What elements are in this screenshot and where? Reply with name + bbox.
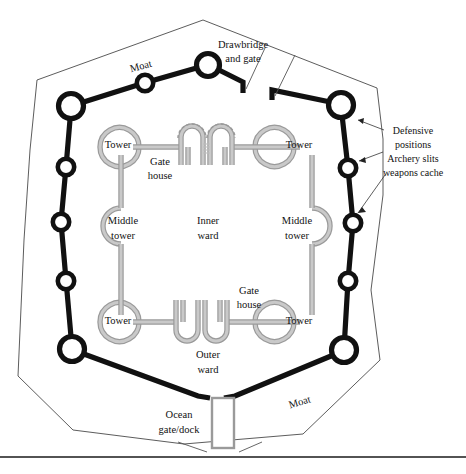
annotation-leaders [358, 118, 385, 213]
label-gate-house-top-line2: house [148, 170, 173, 181]
leader-arrow-2 [359, 157, 366, 163]
leader-arrow-3 [358, 207, 366, 213]
label-middle-tower-right-line2: tower [285, 230, 309, 241]
castle-floor-plan-diagram: Moat Drawbridge and gate Tower Tower Tow… [0, 0, 466, 474]
label-gate-house-top-line1: Gate [150, 156, 170, 167]
moat-node-corner-bottom-left [60, 337, 85, 362]
label-annotation-line3: Archery slits [387, 153, 438, 164]
label-annotation-line4: weapons cache [383, 167, 444, 178]
label-annotation-line2: positions [395, 139, 431, 150]
label-outer-ward-line2: ward [198, 364, 220, 375]
gatehouse-bottom-right-drum [205, 300, 227, 341]
moat-node-corner-top-right [329, 93, 354, 118]
label-middle-tower-left-line1: Middle [108, 215, 139, 226]
label-moat-top: Moat [129, 58, 153, 74]
castle-plan-svg: Moat Drawbridge and gate Tower Tower Tow… [0, 0, 466, 474]
moat-segment-bottom-left [73, 350, 210, 398]
moat-node-corner-bottom-right [332, 338, 357, 363]
label-ocean-gate-line1: Ocean [166, 409, 194, 420]
gatehouse-top-left-drum [181, 126, 203, 165]
label-drawbridge-line1: Drawbridge [218, 39, 268, 50]
ocean-gate-dock-group [212, 398, 234, 448]
moat-node-right-1 [340, 160, 356, 176]
label-middle-tower-left-line2: tower [111, 230, 135, 241]
label-moat-bottom: Moat [287, 393, 311, 410]
label-drawbridge-line2: and gate [225, 53, 261, 64]
label-middle-tower-right-line1: Middle [282, 215, 313, 226]
moat-node-left-1 [58, 159, 74, 175]
label-ocean-gate-line2: gate/dock [159, 424, 201, 435]
moat-node-left-2 [53, 214, 69, 230]
label-inner-ward-line2: ward [198, 230, 220, 241]
leader-arrow-1 [358, 118, 364, 124]
moat-node-left-3 [58, 273, 74, 289]
ocean-dock-rect [212, 398, 234, 448]
label-tower-bottom-left: Tower [105, 315, 132, 326]
label-annotation-line1: Defensive [393, 125, 434, 136]
middle-tower-right-shell [312, 208, 330, 244]
gatehouse-bottom-left-drum [176, 300, 198, 341]
moat-node-corner-top-left [59, 94, 84, 119]
ocean-gate-leader-right [239, 442, 262, 452]
label-gate-house-bottom-line2: house [237, 299, 262, 310]
moat-node-right-2 [345, 215, 361, 231]
moat-node-top-apex [197, 54, 220, 77]
drawbridge-plank-right [275, 55, 295, 96]
label-inner-ward-line1: Inner [197, 215, 220, 226]
label-tower-top-left: Tower [105, 139, 132, 150]
moat-node-right-3 [340, 273, 356, 289]
label-tower-bottom-right: Tower [286, 315, 313, 326]
label-outer-ward-line1: Outer [196, 349, 220, 360]
label-gate-house-bottom-line1: Gate [239, 285, 259, 296]
moat-segment-bottom-right [224, 351, 343, 398]
label-tower-top-right: Tower [286, 139, 313, 150]
moat-node-top-left-mid [137, 75, 153, 91]
gatehouse-top-right-drum [210, 126, 232, 165]
